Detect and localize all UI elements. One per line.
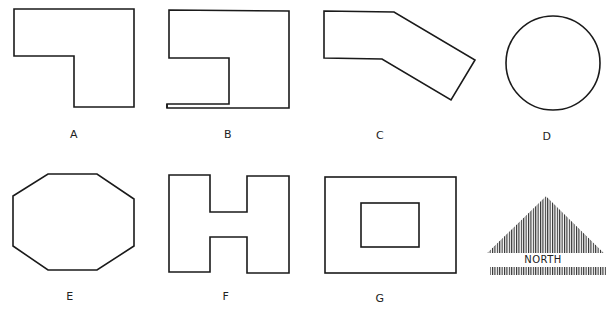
label-g: G [375, 292, 384, 305]
north-triangle-hatch [487, 196, 604, 253]
shape-e-octagon [13, 174, 134, 270]
label-d: D [543, 130, 552, 143]
label-e: E [66, 290, 73, 303]
label-b: B [224, 128, 232, 141]
label-a: A [70, 128, 78, 141]
north-label: NORTH [522, 254, 564, 265]
label-f: F [223, 290, 230, 303]
label-c: C [376, 129, 384, 142]
shape-g-outer-rect [325, 177, 456, 273]
shape-b-outline [167, 10, 289, 108]
shape-a-l-outline [14, 9, 134, 107]
diagram-canvas [0, 0, 609, 309]
shape-f-h-outline [169, 175, 289, 273]
shape-d-circle [506, 16, 600, 110]
shape-g-inner-rect [361, 203, 419, 247]
shape-c-outline [324, 11, 475, 100]
north-base-hatch-bar [490, 267, 606, 275]
